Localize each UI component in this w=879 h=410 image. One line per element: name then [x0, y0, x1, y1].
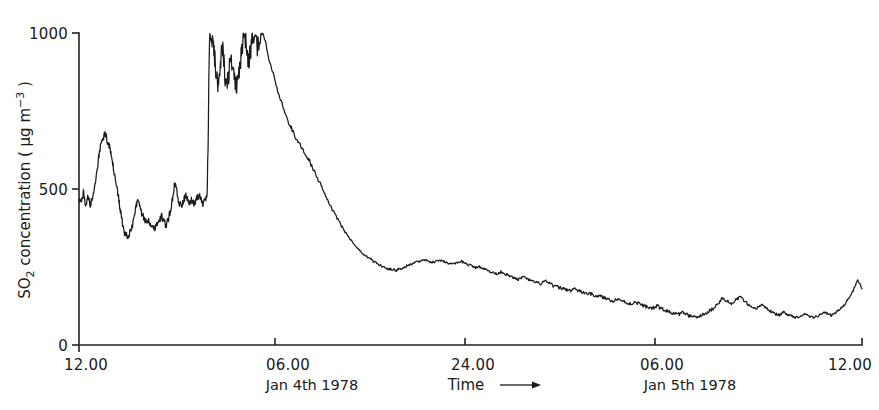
x-axis-title-text: Time [447, 376, 485, 394]
y-axis-title-text: SO2 concentration ( μg m−3 ) [14, 81, 37, 299]
y-axis-title-close: ) [16, 81, 34, 92]
y-axis-title-rest: concentration ( μg m [16, 108, 34, 271]
time-arrow-icon [500, 382, 541, 389]
x-tick-label-1200-start: 12.00 [64, 356, 108, 374]
date-label-jan5: Jan 5th 1978 [643, 377, 737, 393]
x-axis-tick-labels: 12.00 06.00 24.00 06.00 12.00 [64, 356, 872, 374]
y-axis-title-subscript: 2 [24, 271, 37, 278]
series-line-so2 [79, 33, 862, 318]
y-axis-title-superscript: −3 [14, 92, 27, 108]
y-tick-label-0: 0 [58, 337, 68, 355]
y-tick-label-500: 500 [39, 181, 68, 199]
x-tick-label-2400: 24.00 [451, 356, 495, 374]
y-axis-tick-labels: 1000 500 0 [29, 25, 68, 355]
y-axis-ticks [72, 33, 79, 345]
date-label-jan4: Jan 4th 1978 [265, 377, 359, 393]
x-tick-label-0600-jan5: 06.00 [640, 356, 684, 374]
y-axis-title-so: SO [16, 278, 34, 299]
axis-lines [79, 33, 862, 345]
x-axis-title: Time [447, 376, 541, 394]
x-tick-label-1200-end: 12.00 [828, 356, 872, 374]
y-axis-title: SO2 concentration ( μg m−3 ) [14, 81, 37, 299]
figure-container: 1000 500 0 12.00 06.00 24.00 06.00 12.00… [0, 0, 879, 410]
x-tick-label-0600-jan4: 06.00 [266, 356, 310, 374]
y-tick-label-1000: 1000 [29, 25, 68, 43]
so2-time-series-chart: 1000 500 0 12.00 06.00 24.00 06.00 12.00… [0, 0, 879, 410]
